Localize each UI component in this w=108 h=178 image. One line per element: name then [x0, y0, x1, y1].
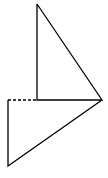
upper-triangle: [37, 4, 102, 100]
lower-triangle: [8, 100, 102, 166]
diagram-canvas: [0, 0, 108, 178]
